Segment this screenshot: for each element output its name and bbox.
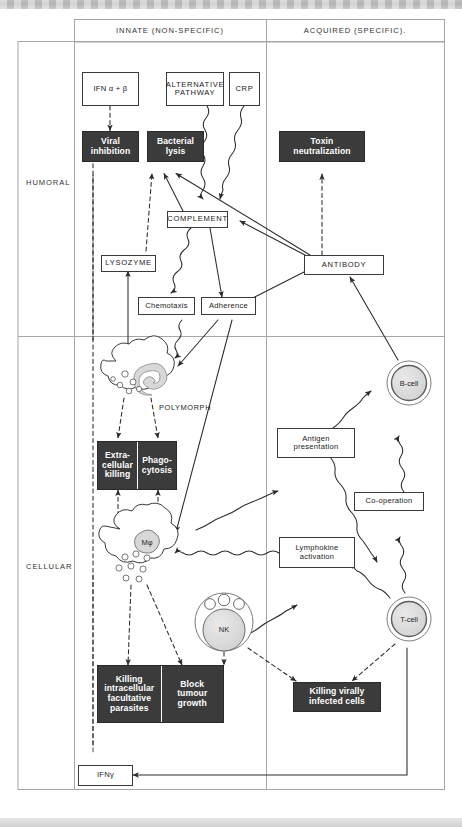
node-killing-intracellular-parasites[interactable]: Killing intracellular facultative parasi… [98, 666, 161, 722]
node-ifn-gamma-label: IFNγ [97, 771, 114, 780]
row-label-cellular: CELLULAR [26, 562, 72, 571]
node-toxin-neutralization-label: Toxin neutralization [293, 137, 350, 156]
node-extracellular-killing[interactable]: Extra- cellular killing [98, 442, 137, 489]
row-label-humoral: HUMORAL [26, 178, 70, 187]
node-crp[interactable]: CRP [229, 72, 260, 106]
polymorph-label: POLYMORPH [159, 403, 211, 412]
node-chemotaxis[interactable]: Chemotaxis [138, 297, 195, 315]
node-ifn-alpha-beta[interactable]: IFN α + β [82, 72, 139, 106]
polymorph-cell-shape [101, 336, 175, 396]
node-viral-inhibition-label: Viral inhibition [91, 137, 131, 156]
node-block-tumour-growth-label: Block tumour growth [177, 680, 207, 709]
node-block-tumour-growth[interactable]: Block tumour growth [161, 666, 224, 722]
node-killing-intracellular-parasites-label: Killing intracellular facultative parasi… [104, 675, 154, 714]
node-phagocytosis[interactable]: Phago- cytosis [137, 442, 176, 489]
node-extracellular-killing-phagocytosis[interactable]: Extra- cellular killing Phago- cytosis [97, 441, 177, 490]
node-killing-intracellular-block-tumour[interactable]: Killing intracellular facultative parasi… [97, 665, 224, 723]
node-alternative-pathway-label: ALTERNATIVE PATHWAY [166, 81, 224, 98]
node-lymphokine-activation[interactable]: Lymphokine activation [279, 537, 355, 568]
node-killing-virally-infected-cells[interactable]: Killing virally infected cells [293, 682, 381, 712]
node-toxin-neutralization[interactable]: Toxin neutralization [279, 131, 365, 162]
node-antigen-presentation[interactable]: Antigen presentation [277, 428, 355, 458]
nk-cell-label: NK [211, 625, 237, 634]
node-complement-label: COMPLEMENT [167, 215, 228, 224]
node-cooperation-label: Co-operation [366, 497, 413, 506]
node-adherence[interactable]: Adherence [201, 297, 256, 315]
t-cell-label: T-cell [391, 615, 427, 624]
node-viral-inhibition[interactable]: Viral inhibition [82, 131, 139, 162]
column-header-innate: INNATE (NON-SPECIFIC) [74, 26, 266, 35]
node-antigen-presentation-label: Antigen presentation [294, 435, 339, 452]
node-bacterial-lysis[interactable]: Bacterial lysis [147, 131, 204, 162]
node-lysozyme[interactable]: LYSOZYME [101, 255, 156, 272]
figure-page: INNATE (NON-SPECIFIC) ACQUIRED (SPECIFIC… [0, 0, 462, 827]
node-antibody[interactable]: ANTIBODY [304, 255, 384, 275]
macrophage-label: Mφ [134, 538, 160, 547]
node-killing-virally-infected-cells-label: Killing virally infected cells [309, 687, 365, 706]
nk-cell-shape [195, 593, 253, 651]
node-adherence-label: Adherence [209, 302, 248, 311]
node-bacterial-lysis-label: Bacterial lysis [157, 137, 194, 156]
node-lysozyme-label: LYSOZYME [105, 259, 151, 268]
node-extracellular-killing-label: Extra- cellular killing [102, 451, 133, 480]
node-chemotaxis-label: Chemotaxis [145, 302, 188, 311]
node-cooperation[interactable]: Co-operation [354, 492, 424, 511]
node-antibody-label: ANTIBODY [322, 261, 366, 270]
node-crp-label: CRP [235, 85, 253, 94]
diagram-canvas [0, 0, 462, 827]
node-ifn-gamma[interactable]: IFNγ [78, 765, 133, 786]
node-alternative-pathway[interactable]: ALTERNATIVE PATHWAY [166, 72, 224, 106]
node-phagocytosis-label: Phago- cytosis [142, 456, 172, 475]
b-cell-label: B-cell [391, 379, 427, 388]
column-header-acquired: ACQUIRED (SPECIFIC). [266, 26, 444, 35]
node-complement[interactable]: COMPLEMENT [167, 211, 228, 228]
node-lymphokine-activation-label: Lymphokine activation [295, 544, 338, 561]
node-ifn-alpha-beta-label: IFN α + β [93, 85, 127, 94]
